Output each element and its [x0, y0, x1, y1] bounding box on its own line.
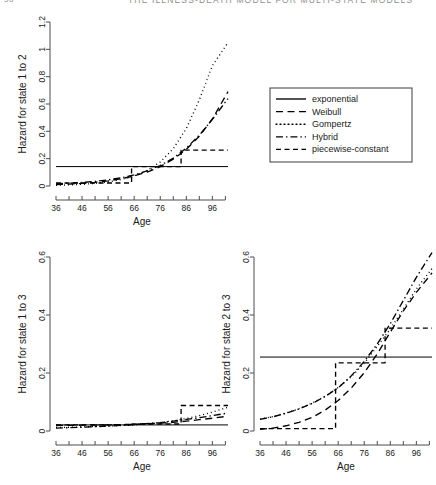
- series-hybrid: [260, 253, 432, 420]
- chart-hazard-1-2: 00.20.40.60.811.2Hazard for state 1 to 2…: [0, 8, 232, 240]
- x-tick-label: 86: [182, 203, 192, 213]
- y-tick-label: 0: [37, 428, 47, 433]
- x-tick-label: 66: [333, 448, 343, 458]
- series-hybrid: [56, 99, 228, 184]
- series-gompertz: [56, 43, 228, 186]
- x-tick-label: 56: [307, 448, 317, 458]
- y-tick-label: 0.6: [241, 251, 251, 263]
- series-weibull: [56, 92, 228, 185]
- x-tick-label: 86: [182, 448, 192, 458]
- running-head-title: THE ILLNESS-DEATH MODEL FOR MULTI-STATE …: [128, 0, 413, 5]
- y-axis-title: Hazard for state 2 to 3: [221, 294, 232, 393]
- x-tick-label: 96: [412, 448, 422, 458]
- legend-panel: exponentialWeibullGompertzHybridpiecewis…: [204, 8, 436, 158]
- legend-label-weibull: Weibull: [312, 107, 341, 117]
- x-tick-label: 96: [208, 203, 218, 213]
- legend-label-piecewise-constant: piecewise-constant: [312, 144, 389, 154]
- series-gompertz: [260, 269, 432, 420]
- x-tick-label: 46: [77, 203, 87, 213]
- legend-svg: exponentialWeibullGompertzHybridpiecewis…: [204, 8, 436, 158]
- chart-hazard-1-3-svg: 00.20.40.6Hazard for state 1 to 33646566…: [0, 243, 232, 485]
- y-tick-label: 0.6: [37, 251, 47, 263]
- x-tick-label: 66: [129, 448, 139, 458]
- y-tick-label: 0.2: [37, 367, 47, 379]
- y-tick-label: 1: [37, 47, 47, 52]
- x-tick-label: 86: [386, 448, 396, 458]
- x-tick-label: 46: [281, 448, 291, 458]
- y-tick-label: 0: [37, 183, 47, 188]
- legend-label-exponential: exponential: [312, 94, 358, 104]
- x-tick-label: 36: [255, 448, 265, 458]
- y-tick-label: 0.4: [37, 125, 47, 137]
- y-tick-label: 0.6: [37, 98, 47, 110]
- series-piecewise-constant: [260, 328, 432, 429]
- y-tick-label: 0.2: [37, 152, 47, 164]
- chart-hazard-1-2-svg: 00.20.40.60.811.2Hazard for state 1 to 2…: [0, 8, 232, 240]
- y-axis-title: Hazard for state 1 to 3: [17, 294, 28, 393]
- chart-hazard-2-3-svg: 00.20.40.6Hazard for state 2 to 33646566…: [204, 243, 436, 485]
- page-folio: 56: [4, 0, 14, 4]
- legend-label-hybrid: Hybrid: [312, 132, 338, 142]
- x-axis-title: Age: [133, 216, 151, 227]
- x-axis-title: Age: [133, 461, 151, 472]
- y-tick-label: 0.2: [241, 367, 251, 379]
- series-weibull: [260, 273, 432, 429]
- y-axis-title: Hazard for state 1 to 2: [17, 54, 28, 153]
- x-axis-title: Age: [337, 461, 355, 472]
- x-tick-label: 76: [360, 448, 370, 458]
- x-tick-label: 36: [51, 203, 61, 213]
- y-tick-label: 0.4: [37, 309, 47, 321]
- x-tick-label: 46: [77, 448, 87, 458]
- y-tick-label: 1.2: [37, 16, 47, 28]
- legend-label-gompertz: Gompertz: [312, 119, 352, 129]
- x-tick-label: 76: [156, 448, 166, 458]
- y-tick-label: 0.8: [37, 70, 47, 82]
- y-tick-label: 0: [241, 428, 251, 433]
- y-tick-label: 0.4: [241, 309, 251, 321]
- series-piecewise-constant: [56, 405, 228, 424]
- x-tick-label: 36: [51, 448, 61, 458]
- chart-hazard-2-3: 00.20.40.6Hazard for state 2 to 33646566…: [204, 243, 436, 485]
- x-tick-label: 76: [156, 203, 166, 213]
- x-tick-label: 56: [103, 203, 113, 213]
- chart-hazard-1-3: 00.20.40.6Hazard for state 1 to 33646566…: [0, 243, 232, 485]
- x-tick-label: 56: [103, 448, 113, 458]
- running-head: 56 THE ILLNESS-DEATH MODEL FOR MULTI-STA…: [0, 0, 436, 7]
- x-tick-label: 66: [129, 203, 139, 213]
